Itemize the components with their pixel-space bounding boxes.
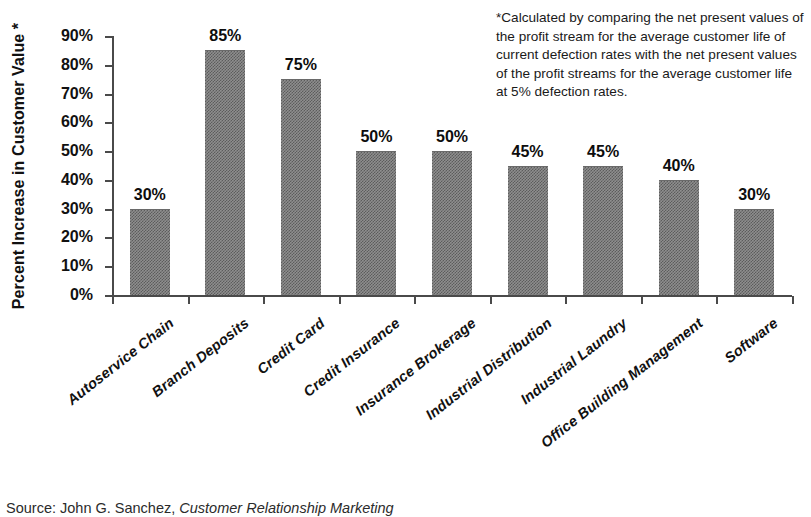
- y-axis-title: Percent Increase in Customer Value *: [6, 6, 32, 326]
- bar-value-label: 50%: [360, 129, 392, 145]
- x-tick: [414, 296, 416, 304]
- bar[interactable]: [130, 209, 170, 295]
- bar-value-label: 45%: [587, 144, 619, 160]
- x-category-label: Office Building Management: [538, 316, 705, 451]
- y-tick-30: 30%: [105, 209, 112, 211]
- x-tick: [263, 296, 265, 304]
- x-tick: [188, 296, 190, 304]
- y-tick-0: 0%: [105, 295, 112, 297]
- bar[interactable]: [659, 180, 699, 295]
- x-tick: [565, 296, 567, 304]
- y-tick-50: 50%: [105, 151, 112, 153]
- source-title: Customer Relationship Marketing: [179, 500, 393, 516]
- bar-value-label: 30%: [134, 187, 166, 203]
- y-tick-label-60: 60%: [61, 114, 93, 130]
- bar[interactable]: [734, 209, 774, 295]
- y-tick-40: 40%: [105, 180, 112, 182]
- bar[interactable]: [205, 50, 245, 295]
- x-category-label: Industrial Distribution: [423, 316, 554, 423]
- y-tick-90: 90%: [105, 36, 112, 38]
- x-category-label: Credit Card: [254, 316, 327, 377]
- x-tick: [792, 296, 794, 304]
- y-tick-label-20: 20%: [61, 229, 93, 245]
- x-category-label: Software: [722, 316, 780, 366]
- bar-value-label: 45%: [512, 144, 544, 160]
- bar-value-label: 40%: [663, 158, 695, 174]
- bar[interactable]: [583, 166, 623, 296]
- y-tick-label-0: 0%: [70, 287, 93, 303]
- y-tick-label-90: 90%: [61, 28, 93, 44]
- y-axis-line: [112, 36, 114, 296]
- bar-value-label: 30%: [738, 187, 770, 203]
- x-tick: [490, 296, 492, 304]
- bar-value-label: 50%: [436, 129, 468, 145]
- x-tick: [716, 296, 718, 304]
- y-tick-70: 70%: [105, 94, 112, 96]
- x-tick-origin: [112, 296, 114, 304]
- bar[interactable]: [281, 79, 321, 295]
- bar[interactable]: [356, 151, 396, 295]
- y-tick-label-80: 80%: [61, 57, 93, 73]
- bar-value-label: 75%: [285, 57, 317, 73]
- x-axis-line: [112, 295, 792, 297]
- source-prefix: Source: John G. Sanchez,: [6, 500, 179, 516]
- bar-value-label: 85%: [209, 28, 241, 44]
- bar[interactable]: [508, 166, 548, 296]
- y-tick-label-30: 30%: [61, 201, 93, 217]
- y-tick-label-70: 70%: [61, 86, 93, 102]
- y-tick-label-40: 40%: [61, 172, 93, 188]
- chart-page: Percent Increase in Customer Value * 0%1…: [0, 0, 811, 517]
- y-tick-label-10: 10%: [61, 258, 93, 274]
- y-tick-10: 10%: [105, 266, 112, 268]
- y-tick-60: 60%: [105, 122, 112, 124]
- y-tick-20: 20%: [105, 237, 112, 239]
- x-tick: [339, 296, 341, 304]
- source-line: Source: John G. Sanchez, Customer Relati…: [6, 500, 394, 516]
- footnote-text: *Calculated by comparing the net present…: [496, 9, 806, 102]
- y-tick-80: 80%: [105, 65, 112, 67]
- x-tick: [641, 296, 643, 304]
- bar[interactable]: [432, 151, 472, 295]
- y-tick-label-50: 50%: [61, 143, 93, 159]
